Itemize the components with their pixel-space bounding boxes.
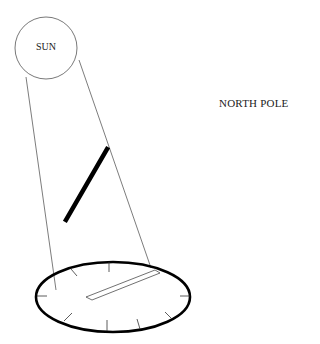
sun-ray-left bbox=[26, 77, 56, 290]
sun-label: SUN bbox=[26, 41, 66, 52]
north-pole-label: NORTH POLE bbox=[219, 97, 288, 109]
gnomon-shadow bbox=[86, 270, 160, 300]
gnomon-rod bbox=[66, 149, 107, 220]
sun-ray-right bbox=[79, 60, 151, 268]
dial-plate bbox=[36, 262, 190, 332]
